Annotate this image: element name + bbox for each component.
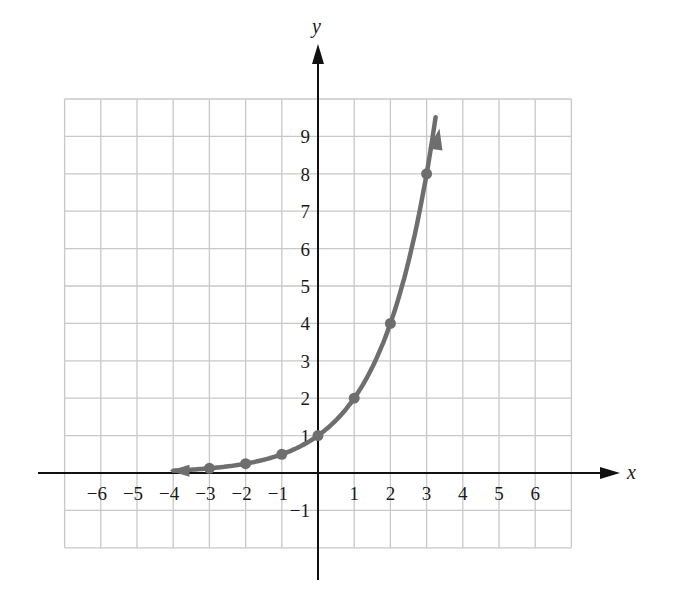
y-tick-label: 9 — [301, 126, 311, 147]
data-point — [385, 318, 396, 329]
y-tick-label: 8 — [301, 164, 311, 185]
data-point — [276, 449, 287, 460]
x-tick-label: −6 — [87, 483, 107, 504]
data-point — [240, 458, 251, 469]
x-tick-label: −3 — [195, 483, 215, 504]
x-tick-label: −5 — [123, 483, 143, 504]
y-tick-label: 6 — [301, 239, 311, 260]
x-tick-label: 5 — [494, 483, 504, 504]
exponential-graph: x y −6−5−4−3−2−1123456−1123456789 — [0, 0, 674, 604]
data-point — [204, 463, 215, 474]
x-tick-label: 6 — [530, 483, 540, 504]
y-axis-arrow-icon — [312, 44, 324, 64]
x-tick-label: 1 — [349, 483, 359, 504]
x-axis-arrow-icon — [600, 467, 620, 479]
x-tick-label: −2 — [231, 483, 251, 504]
y-axis-label: y — [310, 15, 321, 38]
y-tick-label: 3 — [301, 351, 311, 372]
data-point — [421, 168, 432, 179]
x-tick-label: 2 — [386, 483, 396, 504]
data-point — [313, 430, 324, 441]
y-tick-label: −1 — [290, 500, 310, 521]
y-tick-label: 5 — [301, 276, 311, 297]
x-tick-label: 4 — [458, 483, 468, 504]
y-tick-label: 2 — [301, 388, 311, 409]
x-tick-label: 3 — [422, 483, 432, 504]
x-axis-label: x — [626, 461, 636, 483]
data-point — [349, 393, 360, 404]
x-tick-label: −4 — [159, 483, 180, 504]
y-tick-label: 7 — [301, 201, 311, 222]
x-tick-label: −1 — [268, 483, 288, 504]
y-tick-label: 4 — [301, 313, 311, 334]
